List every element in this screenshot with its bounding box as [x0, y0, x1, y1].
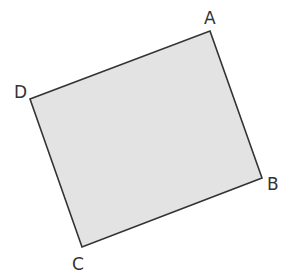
vertex-label-c: C	[72, 254, 84, 274]
vertex-label-a: A	[204, 8, 216, 28]
diagram-svg: A B C D	[0, 0, 286, 279]
quadrilateral-abcd	[30, 31, 262, 247]
vertex-label-d: D	[14, 82, 27, 102]
quadrilateral-diagram: A B C D	[0, 0, 286, 279]
vertex-label-b: B	[267, 174, 279, 194]
